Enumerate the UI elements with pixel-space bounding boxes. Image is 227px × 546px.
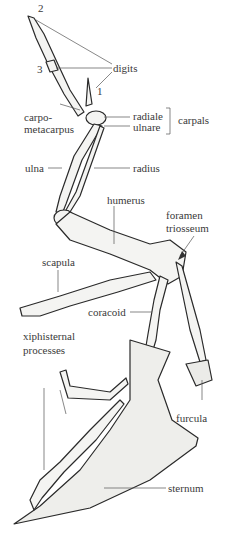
label-ulna: ulna <box>25 163 44 174</box>
carpal-bones <box>86 111 106 125</box>
label-digit-1: 1 <box>97 86 103 97</box>
xiphisternal-process-upper <box>60 370 128 400</box>
label-digit-2: 2 <box>38 3 44 14</box>
label-radius: radius <box>133 163 160 174</box>
label-xiphisternal-1: xiphisternal <box>23 331 75 342</box>
label-humerus: humerus <box>107 195 145 206</box>
label-digits: digits <box>113 63 137 74</box>
label-sternum: sternum <box>168 483 203 494</box>
furcula-tip <box>186 360 212 386</box>
label-carpals: carpals <box>178 115 209 126</box>
digit-1-bone <box>86 78 92 106</box>
label-carpometacarpus-1: carpo- <box>24 112 52 123</box>
label-ulnare: ulnare <box>133 122 160 133</box>
label-foramen-1: foramen <box>166 210 203 221</box>
skeleton-illustration <box>0 0 227 546</box>
label-xiphisternal-2: processes <box>23 345 65 356</box>
furcula-bone <box>176 262 206 362</box>
label-carpometacarpus-2: metacarpus <box>24 124 74 135</box>
label-scapula: scapula <box>42 257 75 268</box>
ulna-bone <box>56 124 102 214</box>
label-furcula: furcula <box>176 413 207 424</box>
label-coracoid: coracoid <box>88 307 126 318</box>
label-digit-3: 3 <box>37 64 43 75</box>
label-foramen-2: triosseum <box>166 223 209 234</box>
